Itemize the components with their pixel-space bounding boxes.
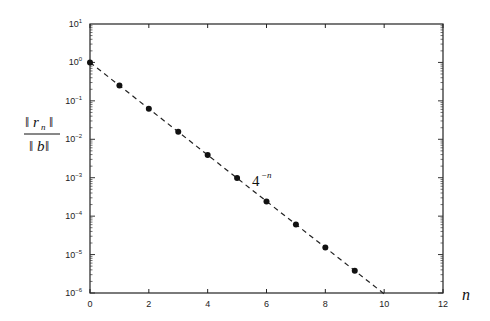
x-tick-label: 2	[146, 299, 151, 309]
plot-area	[90, 24, 443, 293]
svg-text:‖: ‖	[29, 138, 33, 154]
svg-text:‖: ‖	[49, 114, 53, 130]
y-axis-label: ‖ r n ‖ ‖ b ‖	[24, 114, 60, 154]
ylabel-subscript: n	[41, 122, 46, 132]
ylabel-denominator: b	[37, 138, 45, 154]
data-point	[87, 59, 93, 65]
axis-tick-labels: 02468101210110010−110−210−310−410−510−6	[65, 18, 448, 309]
x-tick-label: 8	[323, 299, 328, 309]
ylabel-numerator: r	[33, 114, 39, 130]
data-point	[352, 268, 358, 274]
annotation-exponent: −n	[261, 170, 272, 180]
y-tick-label: 10−3	[65, 172, 83, 183]
y-tick-label: 10−6	[65, 287, 83, 298]
data-point	[234, 175, 240, 181]
data-point	[175, 129, 181, 135]
x-axis-label: n	[462, 286, 470, 303]
data-point	[205, 152, 211, 158]
x-tick-label: 4	[205, 299, 210, 309]
annotation-4-pow-minus-n: 4 −n	[252, 170, 272, 189]
residual-convergence-chart: 02468101210110010−110−210−310−410−510−6 …	[0, 0, 490, 321]
y-tick-label: 10−5	[65, 249, 83, 260]
y-tick-label: 10−1	[65, 95, 83, 106]
y-tick-label: 101	[69, 18, 83, 29]
y-tick-label: 10−2	[65, 133, 83, 144]
data-point	[146, 106, 152, 112]
x-tick-label: 6	[264, 299, 269, 309]
svg-text:‖: ‖	[45, 138, 49, 154]
annotation-base: 4	[252, 173, 260, 189]
y-tick-label: 10−4	[65, 210, 83, 221]
data-point	[116, 83, 122, 89]
svg-text:‖: ‖	[25, 114, 29, 130]
x-tick-label: 0	[87, 299, 92, 309]
data-point	[322, 244, 328, 250]
x-tick-label: 10	[379, 299, 389, 309]
plot-frame	[90, 24, 443, 293]
data-point	[293, 221, 299, 227]
axis-ticks	[90, 24, 443, 293]
x-tick-label: 12	[438, 299, 448, 309]
data-point	[264, 199, 270, 205]
y-tick-label: 100	[69, 56, 83, 67]
